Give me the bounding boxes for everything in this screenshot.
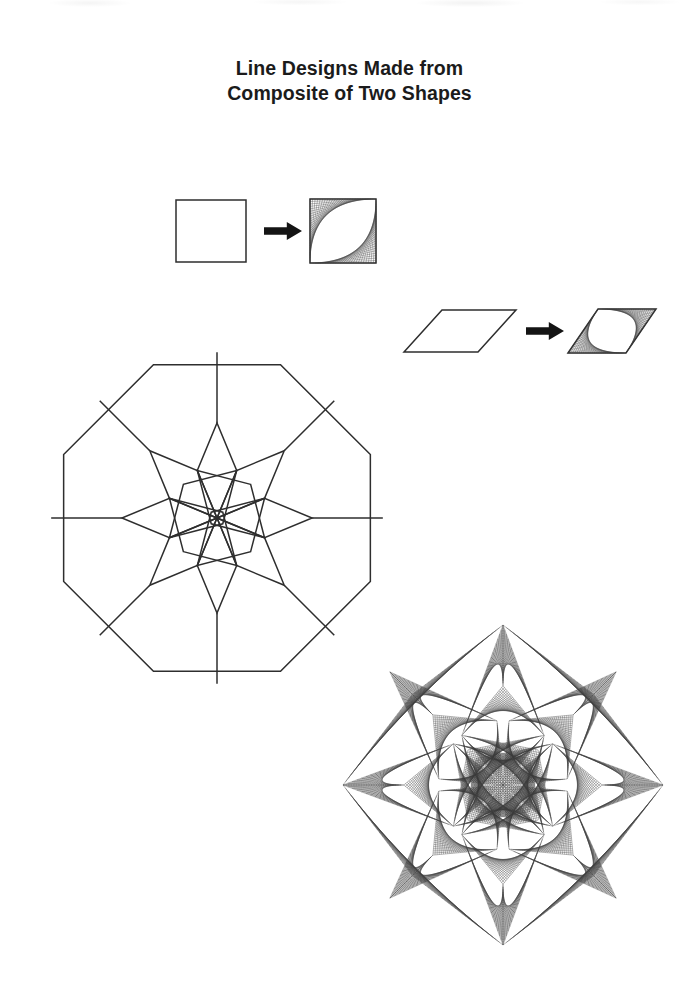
- figure-square-transform: [160, 188, 390, 283]
- figure-octagon-rosette-outline: [46, 347, 390, 691]
- page-canvas: Line Designs Made from Composite of Two …: [0, 0, 699, 990]
- square-curve-stitched: [310, 199, 376, 263]
- title-line-2: Composite of Two Shapes: [0, 81, 699, 106]
- rhombus-curve-stitched: [568, 309, 656, 353]
- square-outline: [176, 200, 246, 262]
- title-line-1: Line Designs Made from: [236, 57, 464, 79]
- rhombus-outline: [404, 310, 516, 352]
- figure-rhombus-transform: [396, 298, 666, 368]
- right-arrow-icon: [264, 222, 302, 240]
- page-title: Line Designs Made from Composite of Two …: [0, 56, 699, 106]
- right-arrow-icon: [526, 322, 564, 340]
- octagon-rosette-tiling: [51, 352, 383, 684]
- scan-noise-artifact: [0, 0, 699, 14]
- figure-octagon-rosette-stitched: [340, 618, 674, 956]
- rosette-curve-stitch-pattern: [343, 625, 663, 945]
